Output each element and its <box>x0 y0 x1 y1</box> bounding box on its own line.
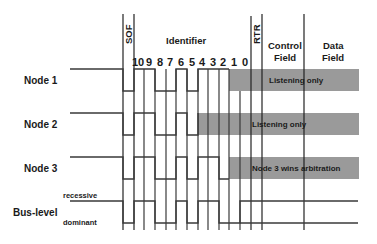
data-field-label-1: Data <box>323 40 344 51</box>
node2-band-text: Listening only <box>252 120 307 129</box>
svg-text:7: 7 <box>167 56 173 68</box>
svg-text:10: 10 <box>132 56 144 68</box>
node2-label: Node 2 <box>24 119 58 130</box>
node2-waveform <box>70 113 198 135</box>
svg-text:9: 9 <box>146 56 152 68</box>
svg-text:3: 3 <box>210 56 216 68</box>
recessive-label: recessive <box>63 191 97 200</box>
node1-waveform <box>70 69 229 91</box>
bus-waveform <box>70 201 358 223</box>
node3-waveform <box>70 157 229 179</box>
rtr-label: RTR <box>251 24 262 44</box>
svg-text:4: 4 <box>199 56 206 68</box>
bit-boundaries <box>144 69 240 230</box>
control-field-label-2: Field <box>274 52 296 63</box>
node3-band-text: Node 3 wins arbitration <box>252 164 341 173</box>
svg-text:5: 5 <box>189 56 195 68</box>
node1-band-text: Listening only <box>269 76 324 85</box>
sof-label: SOF <box>123 24 134 44</box>
dominant-label: dominant <box>63 218 97 227</box>
control-field-label-1: Control <box>268 40 302 51</box>
node3-label: Node 3 <box>24 163 58 174</box>
identifier-label: Identifier <box>166 35 206 46</box>
node1-label: Node 1 <box>24 75 58 86</box>
bus-level-label: Bus-level <box>13 207 58 218</box>
svg-text:2: 2 <box>220 56 226 68</box>
bit-number-labels: 10 9 8 7 6 5 4 3 2 1 0 <box>132 56 248 68</box>
svg-text:0: 0 <box>242 56 248 68</box>
can-arbitration-diagram: SOF Identifier RTR Control Field Data Fi… <box>0 0 377 244</box>
data-field-label-2: Field <box>322 52 344 63</box>
svg-text:6: 6 <box>178 56 184 68</box>
svg-text:1: 1 <box>231 56 237 68</box>
svg-text:8: 8 <box>157 56 163 68</box>
